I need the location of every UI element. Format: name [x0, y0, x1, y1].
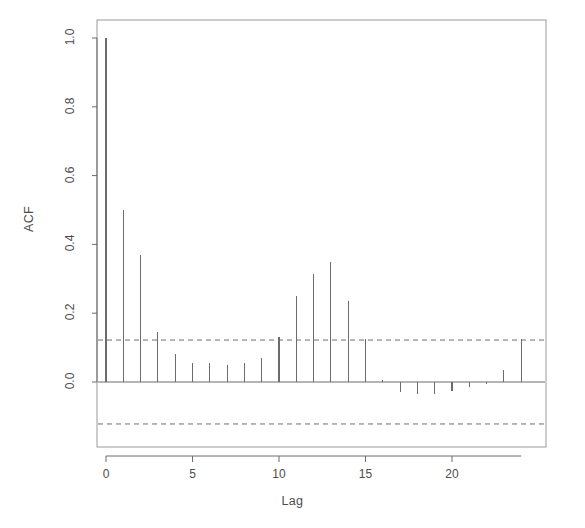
- y-tick-label: 0.6: [63, 158, 77, 192]
- y-tick-label: 0.0: [63, 364, 77, 398]
- acf-bars: [106, 38, 521, 394]
- acf-plot-figure: ACF Lag 0.00.20.40.60.81.005101520: [0, 0, 585, 528]
- y-axis-title: ACF: [22, 206, 36, 232]
- x-tick-label: 20: [432, 467, 472, 481]
- x-axis: [106, 456, 521, 462]
- plot-box: [97, 20, 546, 447]
- x-axis-title: Lag: [0, 494, 585, 508]
- y-tick-label: 1.0: [63, 20, 77, 54]
- y-tick-label: 0.8: [63, 89, 77, 123]
- acf-plot-canvas: [0, 0, 585, 528]
- x-tick-label: 5: [173, 467, 213, 481]
- y-axis: [92, 38, 97, 382]
- y-tick-label: 0.2: [63, 295, 77, 329]
- y-tick-label: 0.4: [63, 226, 77, 260]
- x-tick-label: 10: [259, 467, 299, 481]
- x-tick-label: 0: [86, 467, 126, 481]
- x-tick-label: 15: [346, 467, 386, 481]
- plot-frame: [97, 20, 546, 447]
